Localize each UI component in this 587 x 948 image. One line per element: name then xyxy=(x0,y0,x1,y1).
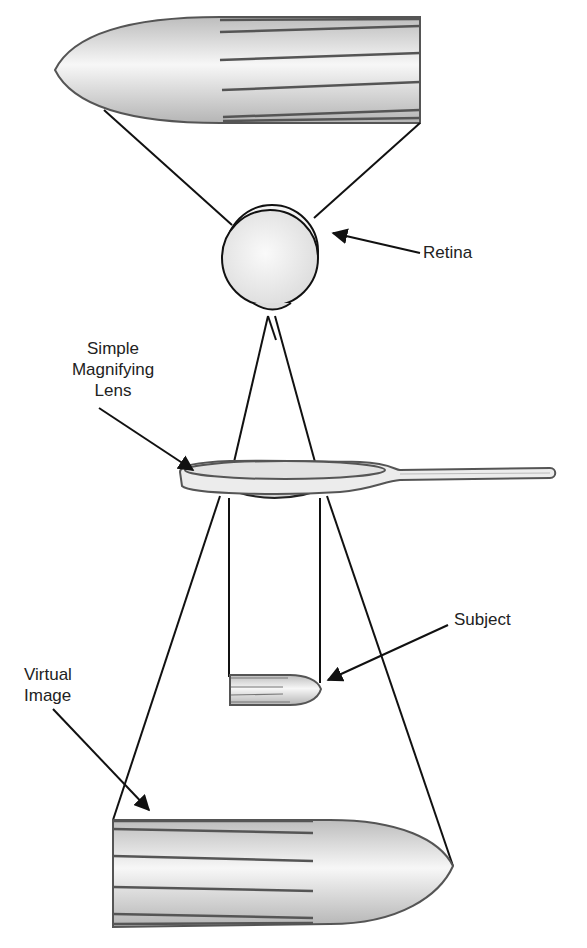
virtual-label-line1: Virtual xyxy=(24,665,72,684)
subject-arrow xyxy=(328,625,448,680)
virtual-image xyxy=(113,820,453,927)
retinal-image xyxy=(55,17,420,123)
retina-label: Retina xyxy=(423,243,473,262)
subject-object xyxy=(230,675,321,705)
magnifier-diagram: Retina Simple Magnifying Lens Subject Vi… xyxy=(0,0,587,948)
annotation-arrows xyxy=(53,233,448,810)
lens-label-line2: Magnifying xyxy=(72,360,154,379)
lens-label-line1: Simple xyxy=(87,339,139,358)
virtual-label-line2: Image xyxy=(24,686,71,705)
rays-eye-to-lens xyxy=(234,316,315,462)
eye xyxy=(222,205,318,310)
retina-arrow xyxy=(333,233,420,253)
subject-label: Subject xyxy=(454,610,511,629)
virtual-image-arrow xyxy=(53,709,149,810)
magnifying-lens xyxy=(180,461,555,498)
lens-label-line3: Lens xyxy=(95,381,132,400)
lens-arrow xyxy=(99,408,193,470)
